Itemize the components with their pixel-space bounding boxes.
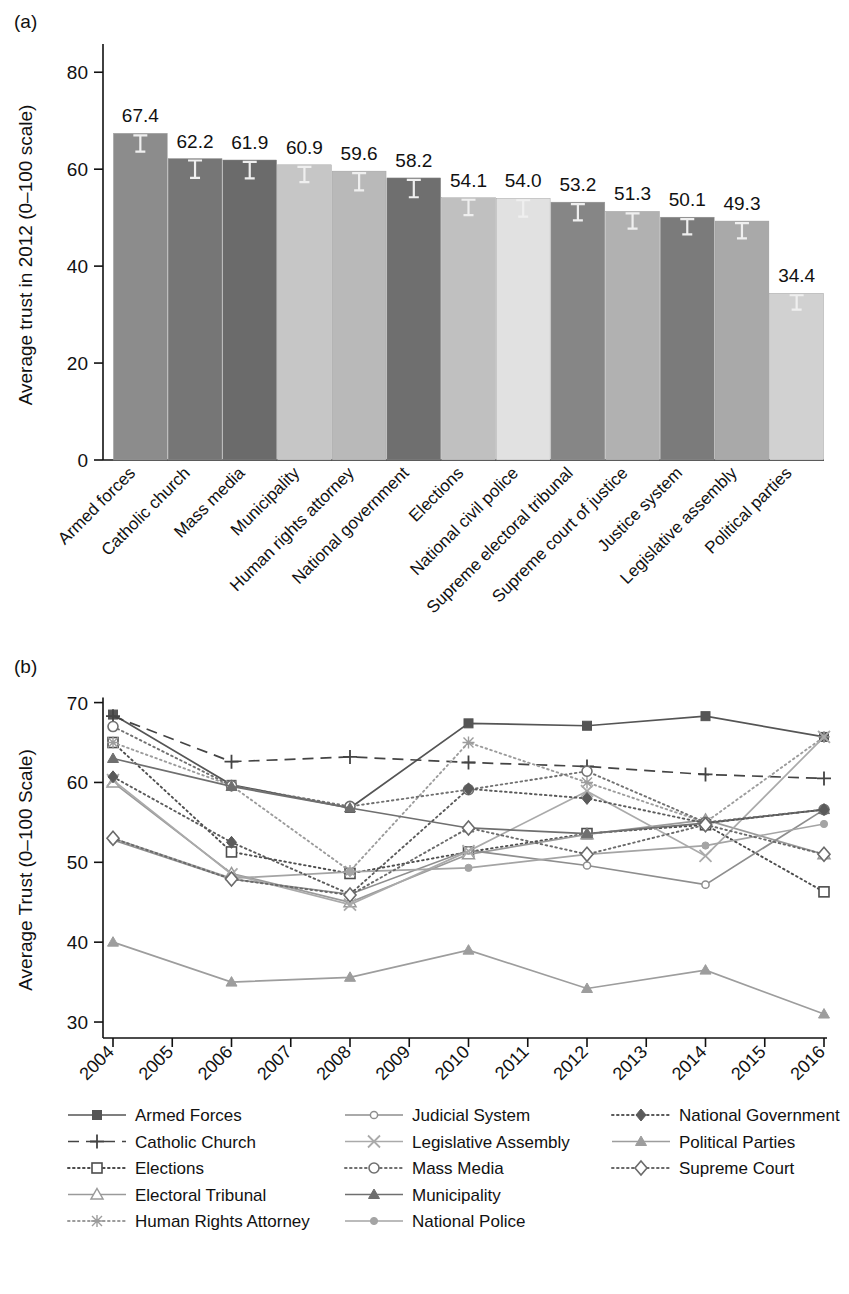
panel-b-x-tick-label: 2009 (372, 1042, 414, 1084)
legend-item[interactable] (68, 1163, 126, 1173)
legend-item[interactable] (68, 1111, 126, 1120)
data-point-marker (700, 850, 712, 862)
panel-a-y-axis-title: Average trust in 2012 (0–100 scale) (15, 105, 36, 406)
data-point-marker (92, 1163, 102, 1173)
bar-value-label: 59.6 (341, 143, 378, 164)
data-point-marker (701, 712, 710, 721)
bar (770, 293, 824, 460)
panel-b-line-chart: (b)Average Trust (0–100 Scale)3040506070… (0, 645, 849, 1294)
panel-b-y-tick-label: 40 (67, 932, 88, 953)
data-point-marker (462, 755, 476, 769)
panel-b-x-tick-label: 2004 (75, 1042, 117, 1084)
legend-item[interactable] (68, 1189, 126, 1200)
legend-item[interactable] (345, 1189, 403, 1199)
data-point-marker (107, 831, 119, 845)
data-point-marker (108, 937, 119, 947)
bar (715, 221, 769, 460)
data-point-marker (635, 1161, 647, 1175)
data-point-marker (369, 1163, 379, 1173)
bar-value-label: 60.9 (286, 137, 323, 158)
bar (442, 198, 496, 460)
legend-label: Mass Media (412, 1159, 504, 1178)
bar (496, 198, 550, 460)
data-point-marker (817, 771, 831, 785)
legend-label: Political Parties (679, 1133, 795, 1152)
bar-chart-svg: (a)Average trust in 2012 (0–100 scale)02… (0, 0, 849, 645)
line-chart-svg: (b)Average Trust (0–100 Scale)3040506070… (0, 645, 849, 1294)
panel-b-y-tick-label: 50 (67, 852, 88, 873)
data-point-marker (636, 1109, 646, 1121)
bar (387, 178, 441, 460)
data-point-marker (108, 722, 118, 732)
bar-group (770, 293, 824, 460)
bar-value-label: 61.9 (231, 132, 268, 153)
legend-item[interactable] (68, 1215, 126, 1227)
data-point-marker (463, 821, 475, 835)
panel-b-x-tick-label: 2016 (786, 1042, 828, 1084)
bar (332, 171, 386, 460)
bar-group (606, 211, 660, 460)
legend-label: Elections (135, 1159, 204, 1178)
panel-a-y-tick-label: 60 (67, 159, 88, 180)
bar (660, 217, 714, 460)
bar-group (277, 165, 331, 460)
data-point-marker (343, 750, 357, 764)
legend-label: Armed Forces (135, 1106, 242, 1125)
panel-a-bar-chart: (a)Average trust in 2012 (0–100 scale)02… (0, 0, 849, 645)
legend-item[interactable] (68, 1135, 126, 1149)
bar-group (223, 160, 277, 460)
data-point-marker (583, 721, 592, 730)
legend-label: Catholic Church (135, 1133, 256, 1152)
data-point-marker (108, 753, 119, 763)
legend-item[interactable] (612, 1161, 670, 1175)
legend-item[interactable] (612, 1136, 670, 1146)
bar-group (551, 202, 605, 460)
panel-b-x-tick-label: 2012 (549, 1042, 591, 1084)
data-point-marker (93, 1111, 102, 1120)
data-point-marker (583, 862, 590, 869)
data-point-marker (108, 771, 118, 783)
data-point-marker (90, 1135, 104, 1149)
bar-group (660, 217, 714, 460)
bar-group (387, 178, 441, 460)
data-point-marker (463, 737, 475, 749)
bar-value-label: 62.2 (177, 131, 214, 152)
panel-a-y-tick-label: 40 (67, 256, 88, 277)
bar-value-label: 67.4 (122, 105, 159, 126)
legend-item[interactable] (345, 1136, 403, 1148)
panel-b-x-tick-label: 2006 (194, 1042, 236, 1084)
legend-label: Judicial System (412, 1106, 530, 1125)
legend-label: Electoral Tribunal (135, 1186, 266, 1205)
panel-b-y-axis-title: Average Trust (0–100 Scale) (15, 749, 36, 991)
data-point-marker (582, 766, 592, 776)
panel-a-letter: (a) (14, 11, 37, 32)
bar (551, 202, 605, 460)
panel-b-y-tick-label: 60 (67, 772, 88, 793)
data-point-marker (346, 868, 353, 875)
legend-item[interactable] (345, 1163, 403, 1173)
legend-label: National Police (412, 1212, 525, 1231)
data-point-marker (819, 887, 829, 897)
panel-b-x-tick-label: 2008 (312, 1042, 354, 1084)
legend-item[interactable] (612, 1109, 670, 1121)
panel-a-y-tick-label: 20 (67, 353, 88, 374)
data-point-marker (702, 881, 709, 888)
bar-group (715, 221, 769, 460)
panel-b-letter: (b) (14, 656, 37, 677)
legend-label: National Government (679, 1106, 840, 1125)
data-point-marker (465, 864, 472, 871)
bar (606, 211, 660, 460)
legend-label: Legislative Assembly (412, 1133, 570, 1152)
bar-value-label: 54.0 (505, 170, 542, 191)
panel-b-x-tick-label: 2010 (431, 1042, 473, 1084)
legend-item[interactable] (345, 1217, 403, 1224)
line-series (108, 937, 830, 1018)
bar-value-label: 58.2 (395, 150, 432, 171)
legend-label: Human Rights Attorney (135, 1212, 310, 1231)
data-point-marker (463, 945, 474, 955)
legend-label: Supreme Court (679, 1159, 795, 1178)
line-series (107, 818, 830, 902)
bar-group (332, 171, 386, 460)
panel-b-x-tick-label: 2015 (727, 1042, 769, 1084)
legend-item[interactable] (345, 1111, 403, 1118)
